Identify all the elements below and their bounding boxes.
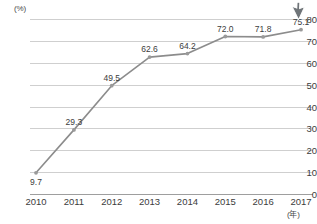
data-point-2012 bbox=[110, 84, 114, 88]
point-value-label-2010: 9.7 bbox=[30, 177, 42, 187]
data-point-2015 bbox=[223, 35, 227, 39]
line-chart: (%) 01020304050607080 201020112012201320… bbox=[0, 0, 317, 224]
mouse-pointer-icon bbox=[290, 1, 306, 21]
data-point-2011 bbox=[72, 128, 76, 132]
data-point-2017 bbox=[299, 28, 303, 32]
point-value-label-2016: 71.8 bbox=[255, 24, 272, 34]
data-point-2010 bbox=[34, 171, 38, 175]
data-point-2013 bbox=[148, 55, 152, 59]
point-value-label-2013: 62.6 bbox=[141, 44, 158, 54]
point-value-label-2015: 72.0 bbox=[217, 24, 234, 34]
point-value-label-2014: 64.2 bbox=[179, 41, 196, 51]
point-value-label-2011: 29.3 bbox=[66, 117, 83, 127]
point-value-label-2012: 49.5 bbox=[103, 73, 120, 83]
x-axis-unit-label: (年) bbox=[287, 208, 300, 219]
data-point-2016 bbox=[261, 35, 265, 39]
data-point-2014 bbox=[186, 52, 190, 56]
